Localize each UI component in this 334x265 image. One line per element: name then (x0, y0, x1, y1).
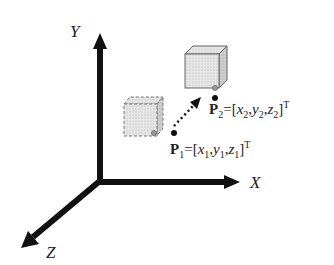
original-cube (124, 97, 163, 136)
x-axis-label: X (250, 173, 260, 193)
y-axis (93, 33, 107, 182)
z-axis-label: Z (46, 243, 55, 263)
diagram-canvas (0, 0, 334, 265)
translation-arrow (174, 97, 201, 126)
z-axis (21, 180, 101, 248)
coordinate-diagram: Y X Z P2=[x2,y2,z2]T P1=[x1,y1,z1]T (0, 0, 334, 265)
x-axis (97, 175, 240, 189)
y-axis-label: Y (70, 22, 79, 42)
translated-cube (185, 46, 227, 91)
point-p1-label: P1=[x1,y1,z1]T (170, 139, 250, 160)
point-p1-marker (171, 130, 177, 136)
point-p2-label: P2=[x2,y2,z2]T (209, 99, 289, 120)
